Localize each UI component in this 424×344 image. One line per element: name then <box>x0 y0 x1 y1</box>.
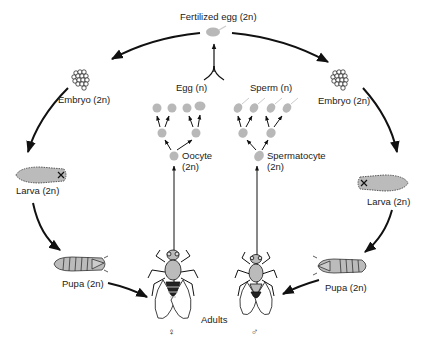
spermatocyte-ploidy-label: (2n) <box>267 161 284 172</box>
larva-icon-right <box>358 175 408 191</box>
pupa-label-left: Pupa (2n) <box>62 278 104 289</box>
arrow-larva-to-pupa-right <box>365 210 392 252</box>
egg-cell <box>168 104 177 113</box>
arrow-pupa-to-female <box>108 283 147 297</box>
arrow-egg-to-embryo-left <box>112 33 200 59</box>
fertilized-egg-label: Fertilized egg (2n) <box>180 11 257 22</box>
egg-cell <box>153 104 162 113</box>
pupa-icon-right <box>313 256 366 275</box>
larva-label-left: Larva (2n) <box>16 185 59 196</box>
larva-label-right: Larva (2n) <box>367 196 410 207</box>
arrow-larva-to-pupa-left <box>33 203 60 250</box>
life-cycle-diagram: Fertilized egg (2n) Embryo (2n) Embryo (… <box>0 0 424 344</box>
fertilization-arrow <box>204 44 224 80</box>
pupa-icon-left <box>54 256 108 272</box>
arrow-egg-to-embryo-right <box>232 33 328 62</box>
egg-cell <box>183 104 192 113</box>
embryo-icon-right <box>331 70 348 90</box>
pupa-label-right: Pupa (2n) <box>325 282 367 293</box>
male-fly-icon <box>235 252 277 315</box>
adults-label: Adults <box>201 314 227 325</box>
secondary-oocyte <box>192 129 201 138</box>
larva-icon-left <box>16 167 66 183</box>
embryo-label-left: Embryo (2n) <box>58 94 110 105</box>
sperm-label: Sperm (n) <box>250 82 292 93</box>
embryo-icon-left <box>72 70 89 90</box>
male-symbol: ♂ <box>251 326 258 337</box>
oocyte-cell <box>170 152 179 161</box>
embryo-label-right: Embryo (2n) <box>318 95 370 106</box>
oocyte-label: Oocyte <box>182 150 212 161</box>
female-fly-icon <box>148 250 198 319</box>
spermatocyte-label: Spermatocyte <box>267 150 326 161</box>
fertilized-egg-icon <box>206 26 226 37</box>
oocyte-ploidy-label: (2n) <box>182 161 199 172</box>
egg-label: Egg (n) <box>176 82 207 93</box>
egg-cell <box>195 102 206 111</box>
secondary-oocyte <box>158 129 167 138</box>
arrow-pupa-to-male <box>283 280 319 294</box>
female-symbol: ♀ <box>168 326 175 337</box>
spermatogenesis-tree <box>232 98 298 300</box>
